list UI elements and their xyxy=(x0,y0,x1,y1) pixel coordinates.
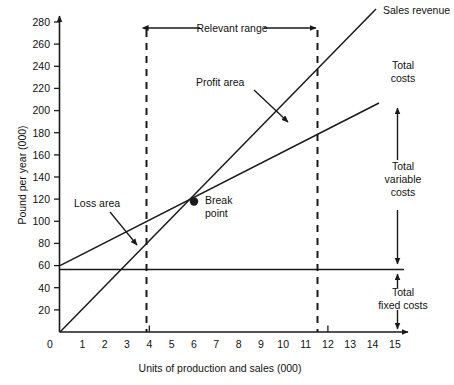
y-tick-label: 280 xyxy=(32,16,50,28)
x-tick-label: 3 xyxy=(124,338,130,350)
total-variable-costs-label-line1: Total xyxy=(392,160,414,172)
x-tick-label: 14 xyxy=(367,338,379,350)
break-point-dot xyxy=(190,197,198,205)
total-fixed-costs-label-line2: fixed costs xyxy=(378,299,428,311)
y-tick-label-zero: 0 xyxy=(47,338,53,350)
y-tick-label: 240 xyxy=(32,60,50,72)
x-tick-label: 10 xyxy=(277,338,289,350)
total-variable-costs-label-line2: variable xyxy=(385,173,422,185)
x-tick-label: 4 xyxy=(146,338,152,350)
x-tick-label: 8 xyxy=(236,338,242,350)
y-tick-label: 140 xyxy=(32,171,50,183)
x-tick-label: 1 xyxy=(79,338,85,350)
x-tick-label: 5 xyxy=(169,338,175,350)
y-tick-label: 160 xyxy=(32,149,50,161)
y-tick-label: 260 xyxy=(32,38,50,50)
y-tick-label: 20 xyxy=(38,304,50,316)
relevant-range-label: Relevant range xyxy=(196,22,267,34)
loss-area-label: Loss area xyxy=(74,197,120,209)
total-variable-costs-label-line3: costs xyxy=(391,186,416,198)
total-costs-annotation: Total costs xyxy=(391,59,416,84)
total-costs-label-line1: Total xyxy=(392,59,414,71)
x-tick-label: 12 xyxy=(322,338,334,350)
x-tick-label: 6 xyxy=(191,338,197,350)
y-tick-label: 60 xyxy=(38,259,50,271)
y-tick-label: 180 xyxy=(32,127,50,139)
chart-canvas: 280 260 240 220 200 180 160 140 120 100 … xyxy=(0,0,454,385)
x-tick-label: 2 xyxy=(102,338,108,350)
x-axis-tick-labels: 1 2 3 4 5 6 7 8 9 10 11 12 13 14 15 xyxy=(79,338,401,350)
total-costs-label-line2: costs xyxy=(391,72,416,84)
y-tick-label: 40 xyxy=(38,282,50,294)
chart-background xyxy=(0,0,454,385)
break-point-label-line1: Break xyxy=(205,194,233,206)
break-even-chart: 280 260 240 220 200 180 160 140 120 100 … xyxy=(0,0,454,385)
x-tick-label: 11 xyxy=(300,338,311,350)
total-fixed-costs-label-line1: Total xyxy=(392,286,414,298)
x-tick-label: 13 xyxy=(344,338,356,350)
y-tick-label: 100 xyxy=(32,215,50,227)
sales-revenue-label: Sales revenue xyxy=(383,4,450,16)
y-axis-title: Pound per year (000) xyxy=(16,125,28,224)
x-tick-label: 15 xyxy=(389,338,401,350)
x-tick-label: 7 xyxy=(213,338,219,350)
profit-area-label: Profit area xyxy=(196,76,245,88)
x-tick-label: 9 xyxy=(258,338,264,350)
y-tick-label: 200 xyxy=(32,104,50,116)
x-axis-title: Units of production and sales (000) xyxy=(139,362,302,374)
y-tick-label: 80 xyxy=(38,237,50,249)
y-tick-label: 120 xyxy=(32,193,50,205)
break-point-label-line2: point xyxy=(205,207,228,219)
y-tick-label: 220 xyxy=(32,82,50,94)
